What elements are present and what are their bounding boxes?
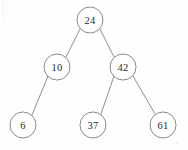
tree-node-label: 61	[158, 120, 169, 131]
tree-node-left[interactable]: 10	[44, 54, 70, 80]
tree-node-label: 24	[85, 15, 96, 26]
tree-edge-right-rightchild	[133, 76, 155, 114]
tree-edge-right-leftchild	[101, 76, 114, 114]
tree-node-label: 10	[52, 62, 63, 73]
binary-search-tree-figure: 24 10 42 6 37 61	[0, 0, 188, 150]
tree-canvas: 24 10 42 6 37 61	[0, 0, 188, 150]
node-layer: 24 10 42 6 37 61	[10, 7, 176, 138]
tree-node-label: 6	[20, 120, 25, 131]
tree-node-leaf-left[interactable]: 6	[10, 112, 36, 138]
tree-node-root[interactable]: 24	[77, 7, 103, 33]
tree-edge-root-right	[100, 29, 114, 57]
tree-node-leaf-right[interactable]: 61	[150, 112, 176, 138]
tree-node-leaf-middle[interactable]: 37	[80, 112, 106, 138]
tree-edge-left-leftchild	[32, 76, 48, 115]
tree-edge-root-left	[66, 29, 80, 57]
tree-node-label: 42	[118, 62, 129, 73]
tree-node-right[interactable]: 42	[110, 54, 136, 80]
tree-node-label: 37	[88, 120, 99, 131]
